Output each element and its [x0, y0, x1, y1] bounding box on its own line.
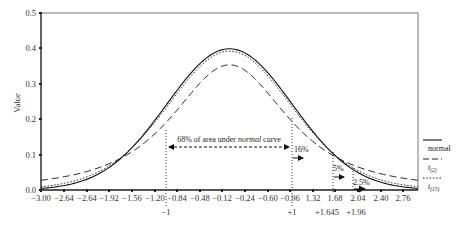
annotation-5pct: 5%	[333, 164, 344, 173]
svg-text:−0.84: −0.84	[167, 193, 187, 203]
svg-text:0.2: 0.2	[25, 114, 36, 124]
svg-text:0.4: 0.4	[25, 43, 36, 53]
t2-curve	[41, 65, 418, 180]
legend-t2-label: t(2)	[428, 163, 437, 174]
marker-label-pos1: +1	[287, 207, 296, 217]
t15-curve	[41, 51, 418, 187]
svg-text:−1.20: −1.20	[145, 193, 165, 203]
normal-curve	[41, 49, 418, 189]
svg-text:−1.92: −1.92	[99, 193, 119, 203]
svg-text:0.5: 0.5	[25, 8, 36, 18]
marker-label-1645: +1.645	[315, 207, 339, 217]
y-tick-labels: 0.0 0.1 0.2 0.3 0.4 0.5	[25, 8, 36, 195]
svg-text:−0.60: −0.60	[258, 193, 278, 203]
svg-text:−2.64: −2.64	[77, 193, 97, 203]
svg-text:−0.12: −0.12	[212, 193, 232, 203]
legend: normal t(2) t(15)	[423, 140, 451, 193]
annotation-16pct: 16%	[294, 145, 309, 154]
svg-text:1.68: 1.68	[328, 193, 343, 203]
svg-text:−1.56: −1.56	[122, 193, 142, 203]
annotation-68pct: 68% of area under normal curve	[177, 135, 281, 144]
plot-area	[41, 13, 418, 190]
y-axis-label: Value	[12, 93, 22, 113]
svg-text:2.04: 2.04	[351, 193, 367, 203]
svg-text:1.32: 1.32	[306, 193, 321, 203]
svg-text:−0.24: −0.24	[235, 193, 255, 203]
svg-text:−2.64: −2.64	[54, 193, 74, 203]
marker-label-196: +1.96	[346, 207, 366, 217]
legend-normal-label: normal	[428, 144, 451, 153]
svg-text:0.3: 0.3	[25, 79, 36, 89]
svg-text:2.40: 2.40	[374, 193, 389, 203]
svg-text:−0.48: −0.48	[190, 193, 210, 203]
svg-text:2.76: 2.76	[396, 193, 411, 203]
svg-text:0.1: 0.1	[25, 150, 36, 160]
legend-t15-label: t(15)	[428, 182, 440, 193]
annotation-2_5pct: 2.5%	[353, 178, 370, 187]
marker-label-neg1: −1	[161, 207, 170, 217]
svg-text:−0.96: −0.96	[280, 193, 300, 203]
x-tick-labels: −3.00 −2.64 −2.64 −1.92 −1.56 −1.20 −0.8…	[31, 193, 410, 203]
svg-text:−3.00: −3.00	[31, 193, 51, 203]
t-distribution-chart: 0.0 0.1 0.2 0.3 0.4 0.5 Value −3.00 −2.6…	[0, 0, 467, 226]
